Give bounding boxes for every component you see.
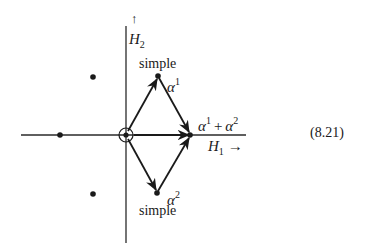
- root-diagram: ↑ H2 simple α1 α2 simple α1+α2 H1→ (8.21…: [0, 0, 368, 248]
- negative-sum-point: [57, 132, 63, 138]
- arrow-origin-to-alpha2: [128, 139, 156, 190]
- lower-left-point: [90, 191, 96, 197]
- sum-label: α1+α2: [198, 115, 238, 134]
- h2-axis-label: H2: [128, 31, 145, 50]
- origin-point: [123, 132, 128, 137]
- arrow-origin-to-alpha1: [128, 79, 157, 131]
- upper-left-point: [90, 74, 96, 80]
- h2-up-arrow: ↑: [131, 11, 138, 26]
- alpha1-label: α1: [167, 76, 180, 95]
- h1-axis-label: H1→: [207, 138, 243, 157]
- alpha1-simple-label: simple: [139, 56, 176, 71]
- arrow-alpha2-to-sum: [158, 138, 189, 191]
- equation-number: (8.21): [310, 125, 344, 141]
- alpha2-point: [154, 190, 160, 196]
- alpha1-point: [155, 73, 161, 79]
- alpha2-simple-label: simple: [139, 203, 176, 218]
- sum-point: [187, 132, 193, 138]
